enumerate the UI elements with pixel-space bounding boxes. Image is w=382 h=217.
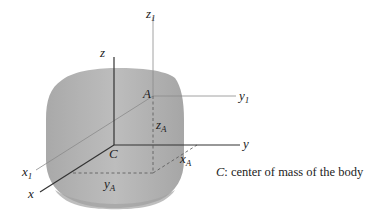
label-y: y: [241, 136, 249, 151]
label-z: z: [99, 45, 105, 60]
label-xA: xA: [179, 151, 192, 168]
rigid-body-diagram: z1 z A y1 zA C y xA x1 yA x C: center of…: [0, 0, 382, 217]
label-y1: y1: [237, 88, 249, 105]
caption-text: : center of mass of the body: [224, 165, 364, 179]
label-x1: x1: [21, 164, 32, 181]
caption: C: center of mass of the body: [216, 165, 364, 179]
label-x: x: [27, 186, 34, 201]
label-z1: z1: [145, 6, 156, 23]
label-C: C: [109, 146, 118, 161]
label-A: A: [142, 86, 151, 101]
